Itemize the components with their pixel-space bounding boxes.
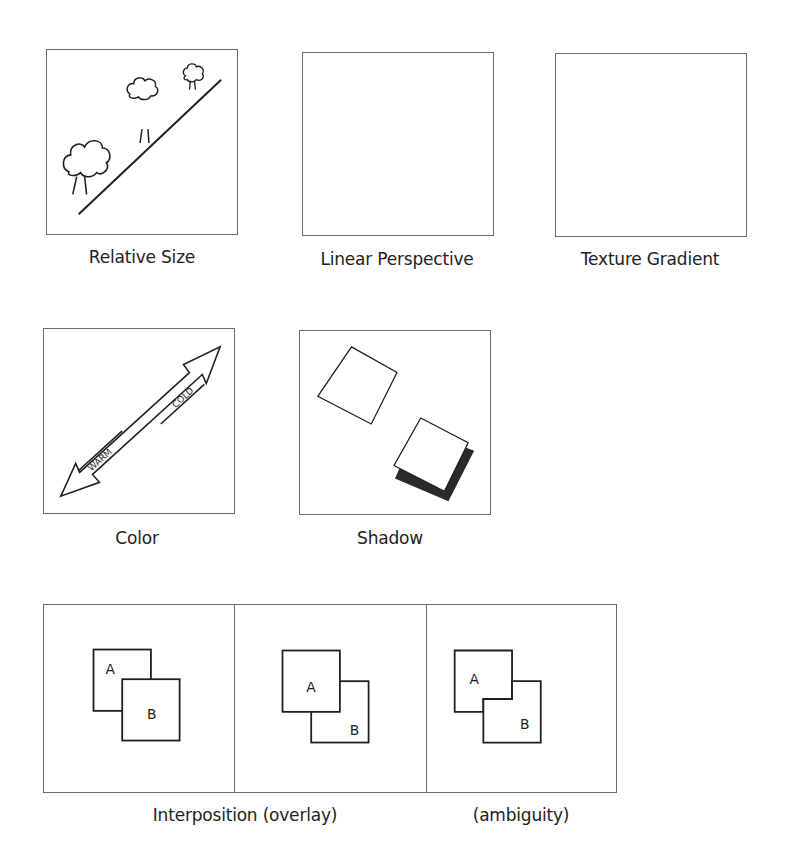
caption-interposition: Interposition (overlay): [153, 805, 337, 825]
caption-color: Color: [115, 528, 158, 548]
caption-ambiguity: (ambiguity): [473, 805, 570, 825]
tree-icon-large: [63, 141, 109, 195]
tree-icon-small: [183, 64, 203, 90]
panel-relative-size: [46, 49, 238, 235]
label-b-2: B: [350, 722, 360, 738]
caption-linear-perspective: Linear Perspective: [320, 249, 473, 269]
label-b-1: B: [147, 706, 157, 722]
square-no-shadow: [318, 347, 397, 424]
caption-shadow: Shadow: [357, 528, 423, 548]
panel-color: WARM COLD: [43, 328, 235, 514]
label-a-2: A: [306, 679, 316, 695]
label-b-3: B: [520, 716, 530, 732]
panel-interposition: A B A B A B: [43, 604, 617, 793]
warm-cold-arrow-illustration: WARM COLD: [44, 329, 234, 513]
label-a-3: A: [470, 671, 480, 687]
relative-size-illustration: [47, 50, 237, 234]
double-arrow-icon: [61, 347, 220, 496]
label-a-1: A: [105, 661, 115, 677]
caption-texture-gradient: Texture Gradient: [581, 249, 719, 269]
panel-linear-perspective: [302, 52, 494, 236]
interposition-illustration: A B A B A B: [44, 605, 616, 792]
shadow-illustration: [300, 331, 490, 514]
panel-texture-gradient: [555, 53, 747, 237]
caption-relative-size: Relative Size: [89, 247, 195, 267]
panel-shadow: [299, 330, 491, 515]
tree-icon-medium: [127, 78, 157, 143]
